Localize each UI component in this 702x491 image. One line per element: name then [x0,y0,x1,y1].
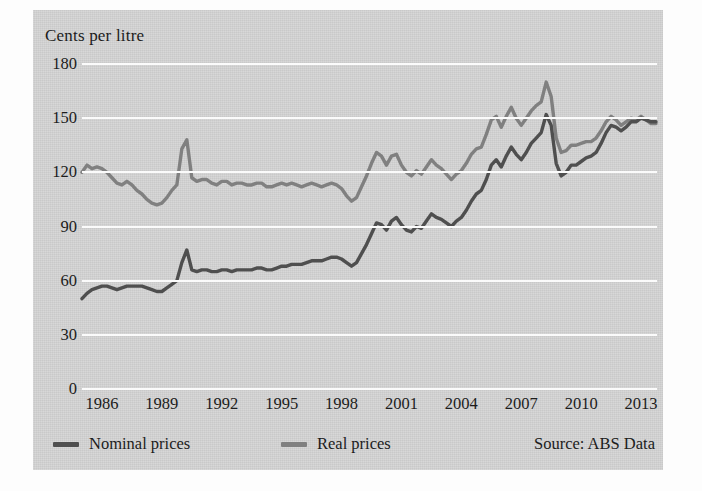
legend-item[interactable]: Real prices [281,432,391,456]
chart-legend: Source: ABS Data Nominal pricesReal pric… [33,432,663,462]
legend-item[interactable]: Nominal prices [53,432,190,456]
legend-swatch-icon [281,442,307,447]
x-tick-label: 1992 [205,394,238,414]
y-tick-label: 180 [52,54,77,74]
gridline [82,117,657,119]
x-tick-label: 2013 [625,394,658,414]
x-tick-label: 2004 [445,394,478,414]
legend-label: Real prices [317,434,391,454]
x-tick-label: 1986 [85,394,118,414]
x-tick-label: 1989 [145,394,178,414]
gridline [82,171,657,173]
legend-label: Nominal prices [89,434,190,454]
x-tick-label: 1998 [325,394,358,414]
y-tick-label: 30 [61,325,78,345]
source-note: Source: ABS Data [534,432,655,456]
gridline [82,334,657,336]
y-tick-label: 120 [52,162,77,182]
y-tick-label: 0 [69,379,77,399]
gridline [82,226,657,228]
series-line [82,115,656,299]
y-tick-label: 150 [52,108,77,128]
gridline [82,280,657,282]
chart-figure: Cents per litre 0306090120150180 1986198… [0,0,702,491]
y-tick-label: 90 [61,217,78,237]
series-line [82,82,656,205]
x-axis-tick-labels: 1986198919921995199820012004200720102013 [82,394,657,418]
gridline [82,388,657,390]
y-axis-tick-labels: 0306090120150180 [33,64,77,389]
plot-area [82,64,657,389]
x-tick-label: 2007 [505,394,538,414]
gridline [82,63,657,65]
x-tick-label: 1995 [265,394,298,414]
x-tick-label: 2001 [385,394,418,414]
y-tick-label: 60 [61,271,78,291]
legend-swatch-icon [53,442,79,447]
x-tick-label: 2010 [565,394,598,414]
chart-axis-unit-title: Cents per litre [45,26,144,46]
